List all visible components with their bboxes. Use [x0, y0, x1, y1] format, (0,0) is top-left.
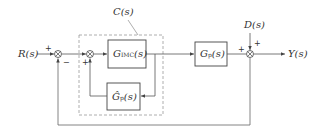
block-diagram-canvas: [0, 0, 320, 135]
output-label: Y(s): [288, 49, 308, 59]
controller-label-leader: [128, 20, 138, 35]
controller-label: C(s): [113, 7, 134, 17]
sum2-plus-sign: +: [82, 59, 89, 67]
sum3-plus-sign-left: +: [238, 46, 245, 54]
block-g-p-label: Gp(s): [200, 49, 225, 59]
block-g-p-hat-label: Ĝp(s): [112, 92, 137, 102]
sum1-plus-sign: +: [45, 45, 52, 53]
input-label: R(s): [18, 49, 38, 59]
disturbance-label: D(s): [244, 20, 265, 30]
sum1-minus-sign: −: [63, 59, 70, 67]
block-g-imc-label: GIMC(s): [113, 49, 147, 59]
sum3-plus-sign-top: +: [254, 40, 261, 48]
